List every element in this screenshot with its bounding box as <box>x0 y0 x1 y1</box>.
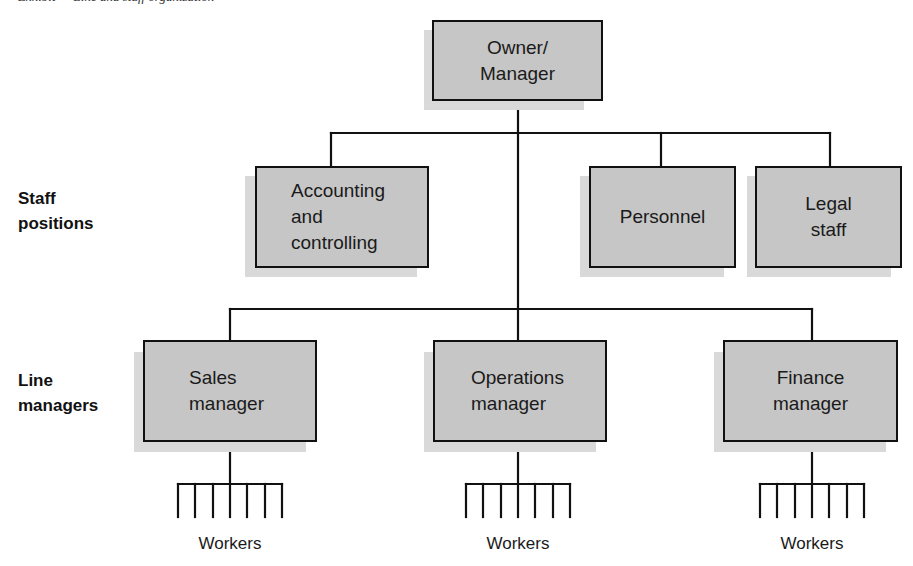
node-label: Manager <box>480 61 555 87</box>
box-finance-manager: Finance manager <box>723 340 898 442</box>
node-label: manager <box>773 391 848 417</box>
box-operations-manager: Operations manager <box>433 340 607 442</box>
row-label-line: positions <box>18 211 94 236</box>
node-label: manager <box>189 391 264 417</box>
row-label-staff-positions: Staff positions <box>18 186 94 236</box>
box-personnel: Personnel <box>589 166 736 268</box>
row-label-line-managers: Line managers <box>18 368 98 418</box>
workers-comb-operations <box>466 441 570 517</box>
workers-label-sales: Workers <box>170 534 290 554</box>
box-owner-manager: Owner/ Manager <box>432 20 603 101</box>
row-label-line: managers <box>18 393 98 418</box>
box-sales-manager: Sales manager <box>143 340 317 442</box>
box-legal-staff: Legal staff <box>755 166 902 268</box>
node-label: controlling <box>291 230 378 256</box>
node-label: Operations <box>471 365 564 391</box>
node-label: staff <box>811 217 847 243</box>
workers-comb-finance <box>760 441 864 517</box>
row-label-line: Line <box>18 368 98 393</box>
node-label: Owner/ <box>487 35 548 61</box>
box-accounting-controlling: Accounting and controlling <box>255 166 429 268</box>
node-label: Personnel <box>620 204 706 230</box>
node-label: manager <box>471 391 546 417</box>
row-label-line: Staff <box>18 186 94 211</box>
node-label: Accounting <box>291 178 385 204</box>
node-label: and <box>291 204 323 230</box>
node-label: Sales <box>189 365 237 391</box>
workers-label-finance: Workers <box>752 534 872 554</box>
workers-label-operations: Workers <box>458 534 578 554</box>
node-label: Finance <box>777 365 845 391</box>
workers-comb-sales <box>178 441 282 517</box>
node-label: Legal <box>805 191 852 217</box>
